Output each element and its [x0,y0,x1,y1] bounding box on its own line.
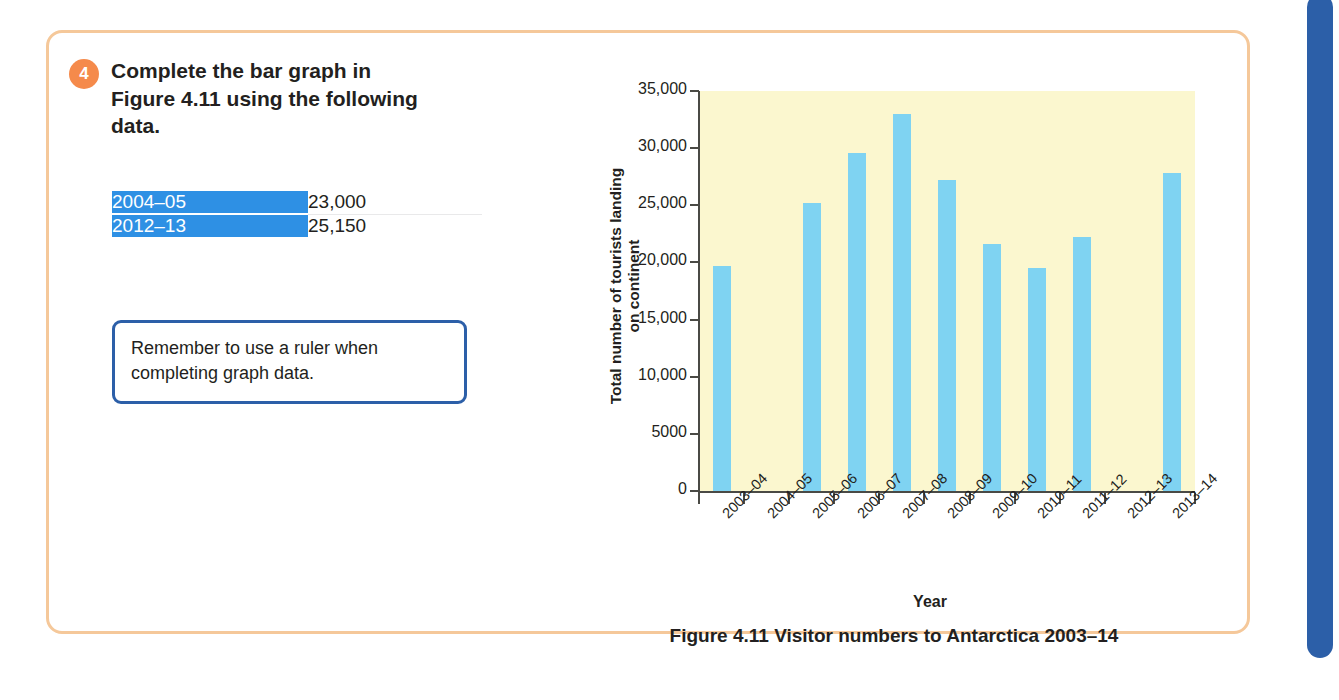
figure-caption: Figure 4.11 Visitor numbers to Antarctic… [569,625,1219,647]
question-block: 4 Complete the bar graph in Figure 4.11 … [69,57,539,140]
table-body: 2004–05 23,000 2012–13 25,150 [112,191,482,237]
x-axis-line [698,491,1195,493]
bar [1163,173,1181,491]
table-cell-year: 2004–05 [112,191,308,214]
page-edge-tab [1303,0,1339,700]
question-header: 4 Complete the bar graph in Figure 4.11 … [69,57,539,140]
table-row: 2012–13 25,150 [112,214,482,237]
bar [803,203,821,491]
y-axis-tick-label: 10,000 [605,366,696,384]
bar [983,244,1001,491]
tip-text: Remember to use a ruler when completing … [131,336,448,386]
table-cell-value: 23,000 [308,191,482,214]
x-axis-tick [698,493,700,504]
page-tab-blue-strip [1307,0,1333,658]
plot-wrap: 0500010,00015,00020,00025,00030,00035,00… [665,91,1195,507]
y-axis-tick-label: 20,000 [605,251,696,269]
y-axis-tick-label: 30,000 [605,137,696,155]
question-number-badge: 4 [69,59,99,89]
y-axis-tick-label: 0 [605,480,696,498]
activity-card: 4 Complete the bar graph in Figure 4.11 … [46,30,1250,634]
y-axis-tick-label: 5000 [605,423,696,441]
bar [1073,237,1091,491]
bar [1028,268,1046,491]
y-axis-tick-label: 35,000 [605,80,696,98]
table-row: 2004–05 23,000 [112,191,482,214]
y-axis-line [698,91,700,492]
y-axis-tick-label: 15,000 [605,309,696,327]
y-axis-tick-label: 25,000 [605,194,696,212]
bar [938,180,956,491]
bar [848,153,866,491]
tip-box: Remember to use a ruler when completing … [112,320,467,404]
bar-chart-figure: Total number of tourists landing on cont… [569,55,1219,625]
question-text: Complete the bar graph in Figure 4.11 us… [111,57,441,140]
bar [893,114,911,491]
table-cell-year: 2012–13 [112,214,308,237]
bar [713,266,731,491]
table-cell-value: 25,150 [308,214,482,237]
data-table: 2004–05 23,000 2012–13 25,150 [112,191,482,237]
x-axis-title: Year [665,593,1195,611]
